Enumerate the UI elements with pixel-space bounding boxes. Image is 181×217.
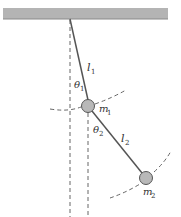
arc-path-m1 <box>50 107 81 110</box>
label-theta2: θ 2 <box>93 124 103 138</box>
svg-text:1: 1 <box>80 85 84 93</box>
arc-path-m2-upper <box>154 151 171 172</box>
svg-text:2: 2 <box>99 130 103 138</box>
label-l1: l 1 <box>87 61 95 76</box>
label-m1: m 1 <box>99 103 111 117</box>
rod-2 <box>92 111 142 173</box>
svg-text:1: 1 <box>91 68 95 76</box>
label-l2: l 2 <box>121 132 129 147</box>
mass-2-bob <box>140 172 153 185</box>
label-theta1: θ 1 <box>74 79 84 93</box>
label-m2: m 2 <box>143 186 155 200</box>
arc-path-m1-right <box>95 90 126 104</box>
arc-path-m2 <box>110 184 140 198</box>
mass-1-bob <box>82 100 95 113</box>
svg-text:1: 1 <box>107 109 111 117</box>
double-pendulum-diagram: l 1 θ 1 m 1 θ 2 l 2 m 2 <box>0 0 181 217</box>
ceiling-support <box>3 8 168 19</box>
svg-text:2: 2 <box>151 192 155 200</box>
svg-text:2: 2 <box>125 139 129 147</box>
